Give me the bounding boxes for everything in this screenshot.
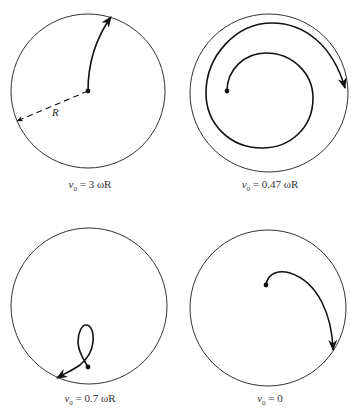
panel-bottom-left [11,228,167,384]
caption-value: = 0.47 ωR [250,178,298,190]
caption-top-left: v0 = 3 ωR [69,178,112,193]
panel-top-left [11,14,165,168]
boundary-circle [11,228,167,384]
panel-bottom-right [190,230,346,386]
radius-label: R [52,106,59,118]
start-point-dot [86,89,91,94]
trajectory-loop [57,325,93,378]
start-point-dot [264,283,269,288]
trajectory-curve [88,17,111,91]
panel-top-right [190,14,348,172]
trajectory-spiral [206,23,345,148]
caption-value: = 0.7 ωR [73,392,116,404]
caption-value: = 0 [266,392,283,404]
caption-bottom-left: v0 = 0.7 ωR [64,392,115,407]
trajectory-curve [266,272,333,350]
start-point-dot [225,89,230,94]
caption-top-right: v0 = 0.47 ωR [242,178,299,193]
caption-value: = 3 ωR [77,178,112,190]
start-point-dot [86,365,91,370]
figure-canvas [0,0,360,417]
boundary-circle [190,230,346,386]
caption-bottom-right: v0 = 0 [257,392,283,407]
